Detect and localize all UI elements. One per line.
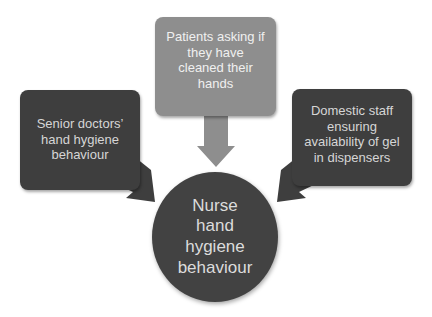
- text-line: they have: [166, 45, 264, 61]
- text-line: hygiene: [178, 237, 253, 258]
- text-line: Senior doctors’: [37, 116, 124, 132]
- text-line: hands: [166, 76, 264, 92]
- influence-box-domestic-staff: Domestic staff ensuring availability of …: [292, 89, 412, 186]
- text-line: Domestic staff: [304, 103, 399, 119]
- text-line: ensuring: [304, 119, 399, 135]
- text-line: hand hygiene: [37, 132, 124, 148]
- center-label: Nurse hand hygiene behaviour: [178, 196, 253, 279]
- influence-label-senior-doctors: Senior doctors’ hand hygiene behaviour: [37, 116, 124, 163]
- influence-box-senior-doctors: Senior doctors’ hand hygiene behaviour: [20, 90, 140, 190]
- influence-label-domestic-staff: Domestic staff ensuring availability of …: [304, 103, 399, 165]
- text-line: behaviour: [37, 147, 124, 163]
- center-node-nurse-hand-hygiene: Nurse hand hygiene behaviour: [152, 172, 278, 302]
- text-line: Patients asking if: [166, 29, 264, 45]
- influence-label-patients: Patients asking if they have cleaned the…: [166, 29, 264, 91]
- text-line: behaviour: [178, 258, 253, 279]
- text-line: in dispensers: [304, 150, 399, 166]
- text-line: Nurse: [178, 196, 253, 217]
- influence-box-patients: Patients asking if they have cleaned the…: [155, 17, 276, 116]
- text-line: availability of gel: [304, 134, 399, 150]
- arrow-top-to-center: [197, 114, 235, 167]
- text-line: hand: [178, 216, 253, 237]
- text-line: cleaned their: [166, 60, 264, 76]
